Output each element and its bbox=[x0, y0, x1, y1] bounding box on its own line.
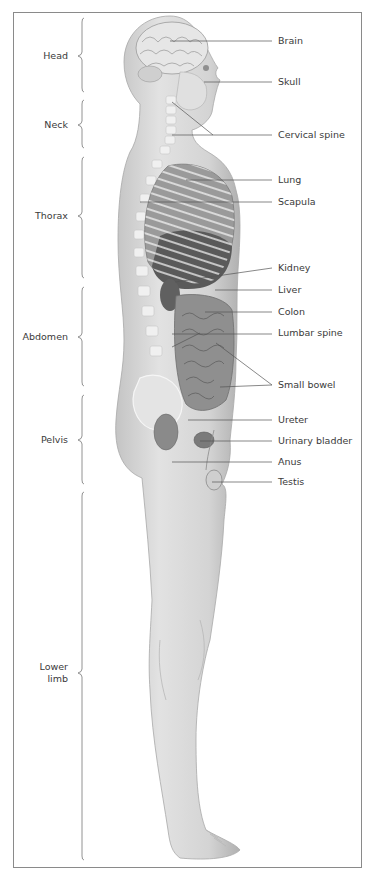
part-label-scapula: Scapula bbox=[278, 196, 316, 208]
part-label-kidney: Kidney bbox=[278, 262, 310, 274]
part-label-cervical-spine: Cervical spine bbox=[278, 129, 345, 141]
part-label-anus: Anus bbox=[278, 456, 302, 468]
region-label-thorax: Thorax bbox=[6, 210, 68, 222]
part-label-skull: Skull bbox=[278, 76, 301, 88]
region-label-lower-limb: Lower limb bbox=[6, 661, 68, 685]
region-label-neck: Neck bbox=[6, 119, 68, 131]
region-label-abdomen: Abdomen bbox=[6, 331, 68, 343]
region-label-lower-limb-line2: limb bbox=[6, 673, 68, 685]
part-label-ureter: Ureter bbox=[278, 414, 308, 426]
region-label-head: Head bbox=[6, 50, 68, 62]
part-label-testis: Testis bbox=[278, 476, 304, 488]
part-label-colon: Colon bbox=[278, 306, 305, 318]
body-silhouette bbox=[116, 16, 240, 859]
region-label-lower-limb-line1: Lower bbox=[6, 661, 68, 673]
part-label-brain: Brain bbox=[278, 35, 303, 47]
part-label-small-bowel: Small bowel bbox=[278, 379, 336, 391]
part-label-urinary-bladder: Urinary bladder bbox=[278, 435, 352, 447]
part-label-liver: Liver bbox=[278, 284, 301, 296]
region-label-pelvis: Pelvis bbox=[6, 434, 68, 446]
part-label-lung: Lung bbox=[278, 174, 301, 186]
region-braces bbox=[78, 18, 84, 860]
part-label-lumbar-spine: Lumbar spine bbox=[278, 327, 343, 339]
